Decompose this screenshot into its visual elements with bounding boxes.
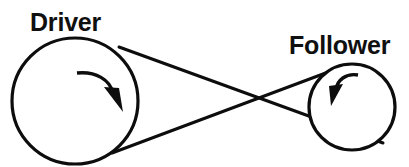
belt-drive-canvas: Driver Follower (0, 0, 409, 167)
belt-drive-diagram: Driver Follower (0, 0, 409, 167)
driver-label: Driver (30, 8, 102, 36)
follower-pulley (309, 64, 395, 150)
follower-label: Follower (289, 31, 391, 59)
